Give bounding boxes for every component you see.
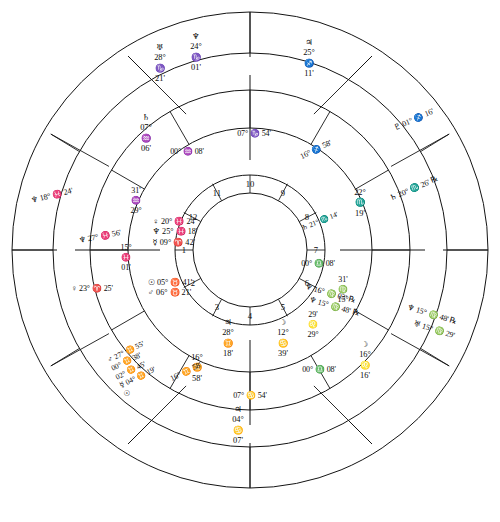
jupiter-minute: 58'	[191, 373, 203, 383]
leo-sign-icon: ♌	[359, 360, 371, 370]
jupiter-minute: 11'	[303, 68, 315, 78]
jupiter-degree: 25°	[303, 48, 315, 58]
house-number-3[interactable]: 3	[215, 302, 219, 312]
house-number-10[interactable]: 10	[246, 179, 255, 189]
capricorn-sign-icon: ♑	[154, 63, 166, 73]
astrology-chart-wheel: ♅ 28° ♑ 21' ♆ 24° ♑ 01' ♃ 25° ♐ 11' ♇ 01…	[0, 0, 500, 522]
ring-house-inner-edge	[193, 193, 307, 307]
moon-glyph-icon: ☽	[277, 318, 289, 328]
chart-wheel-svg	[0, 0, 500, 522]
moon-minute: 16'	[359, 370, 371, 380]
outer-body-jupiter-sagittarius: ♃ 25° ♐ 11'	[303, 38, 315, 79]
ring-middle-inner-edge	[128, 128, 372, 372]
sagittarius-sign-icon: ♐	[303, 58, 315, 68]
outer-body-moon-leo: ☽ 16° ♌ 16'	[359, 340, 371, 381]
uranus-glyph-icon: ♅	[154, 43, 166, 53]
house-ring-spokes	[175, 175, 325, 325]
inner-cluster-taurus: ☉ 05° ♉ 41' ♂ 06° ♉ 21'	[148, 278, 192, 299]
moon-degree: 16°	[359, 350, 371, 360]
cusp12-minute: 01'	[120, 263, 131, 273]
saturn-degree: 07°	[140, 123, 152, 133]
capricorn-sign-icon: ♑	[190, 52, 202, 62]
jupiter-minute: 18'	[222, 348, 234, 358]
saturn-glyph-icon: ♄	[140, 113, 152, 123]
inner-body-sun-taurus: ☉ 05° ♉ 41'	[148, 278, 192, 288]
cusp6-degree: 29°	[130, 206, 141, 216]
aquarius-sign-icon: ♒	[130, 196, 141, 206]
jupiter-minute: 07'	[232, 435, 244, 445]
ring-house-outer-edge	[175, 175, 325, 325]
outer-body-neptune-capricorn: ♆ 24° ♑ 01'	[190, 32, 202, 73]
inner-body-mercury-aries: ☿ 09° ♈ 42'	[153, 237, 198, 247]
uranus-degree: 28°	[154, 53, 166, 63]
middle-body-jupiter-gemini: 16° ♊ 58'	[191, 353, 203, 384]
house-number-11[interactable]: 11	[213, 188, 221, 198]
cusp-house6-label: 31' ♒ 29°	[130, 186, 141, 215]
outer-body-uranus-capricorn: ♅ 28° ♑ 21'	[154, 43, 166, 84]
moon-glyph-icon: ☽	[359, 340, 371, 350]
neptune-glyph-icon: ♆	[190, 32, 202, 42]
house-number-2[interactable]: 2	[191, 278, 195, 288]
outer-body-saturn-aquarius: ♄ 07° ♒ 06'	[140, 113, 152, 154]
jupiter-glyph-icon: ♃	[303, 38, 315, 48]
cusp3-degree: 15°	[337, 295, 348, 305]
outer-body-moon-cancer: ☽ 12° ♋ 39'	[277, 318, 289, 359]
gemini-sign-icon: ♊	[191, 363, 203, 373]
aquarius-sign-icon: ♒	[140, 133, 152, 143]
saturn-minute: 19'	[354, 208, 366, 218]
jupiter-degree: 04°	[232, 415, 244, 425]
cusp-house12-label: 15° ♓ 01'	[120, 243, 131, 272]
cancer-sign-icon: ♋	[277, 338, 289, 348]
cusp12-degree: 15°	[120, 243, 131, 253]
cusp9-degree: 29°	[307, 330, 318, 340]
house-number-4[interactable]: 4	[248, 311, 252, 321]
moon-minute: 39'	[277, 348, 289, 358]
gemini-sign-icon: ♊	[222, 338, 234, 348]
virgo-sign-icon: ♍	[337, 285, 348, 295]
moon-degree: 12°	[277, 328, 289, 338]
neptune-minute: 01'	[190, 62, 202, 72]
uranus-minute: 21'	[154, 73, 166, 83]
inner-body-neptune-pisces: ♆ 25° ♓ 18'	[153, 227, 198, 237]
house-number-6[interactable]: 6	[305, 278, 309, 288]
jupiter-glyph-icon: ♃	[232, 405, 244, 415]
cusp-house3-label: 31' ♍ 15°	[337, 275, 348, 304]
cusp6-minute: 31'	[130, 186, 141, 196]
saturn-minute: 06'	[140, 143, 152, 153]
cusp9-minute: 29'	[307, 310, 318, 320]
outer-body-jupiter-cancer: ♃ 04° ♋ 07'	[232, 405, 244, 446]
pisces-sign-icon: ♓	[120, 253, 131, 263]
inner-body-mars-taurus: ♂ 06° ♉ 21'	[148, 288, 192, 298]
chart-axes	[12, 12, 488, 488]
neptune-degree: 24°	[190, 42, 202, 52]
house-number-12[interactable]: 12	[189, 212, 198, 222]
cancer-sign-icon: ♋	[232, 425, 244, 435]
cusp-house9-label: 29' ♌ 29°	[307, 310, 318, 339]
house-number-1[interactable]: 1	[182, 245, 186, 255]
jupiter-glyph-icon: ♃	[222, 318, 234, 328]
jupiter-degree: 28°	[222, 328, 234, 338]
jupiter-degree: 16°	[191, 353, 203, 363]
leo-sign-icon: ♌	[307, 320, 318, 330]
house-number-9[interactable]: 9	[281, 188, 285, 198]
middle-body-saturn-scorpio: 22° ♏ 19'	[354, 188, 366, 219]
house-number-5[interactable]: 5	[281, 302, 285, 312]
house-number-7[interactable]: 7	[314, 245, 318, 255]
saturn-degree: 22°	[354, 188, 366, 198]
scorpio-sign-icon: ♏	[354, 198, 366, 208]
outer-body-jupiter-gemini: ♃ 28° ♊ 18'	[222, 318, 234, 359]
house-number-8[interactable]: 8	[305, 212, 309, 222]
cusp3-minute: 31'	[337, 275, 348, 285]
